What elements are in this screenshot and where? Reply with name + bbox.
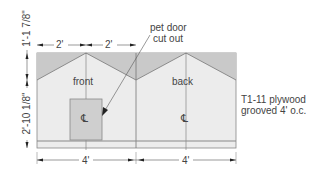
- dim-vertical-bottom: 2'-10 1/8": [21, 84, 32, 144]
- dim-top-left: 2': [56, 39, 63, 50]
- arrow-icon: [80, 44, 86, 47]
- arrow-icon: [130, 44, 136, 47]
- arrow-icon: [86, 44, 92, 47]
- arrow-icon: [37, 44, 43, 47]
- dim-bottom-right: 4': [182, 155, 189, 166]
- dim-bottom-left: 4': [82, 155, 89, 166]
- centerline-mark-back: ℄: [181, 113, 188, 124]
- note-line1: T1-11 plywood: [241, 94, 306, 105]
- note-line2: grooved 4' o.c.: [241, 105, 306, 116]
- panel-label-back: back: [172, 76, 193, 87]
- dim-top-right: 2': [105, 39, 112, 50]
- centerline-mark-front: ℄: [81, 113, 88, 124]
- panel-label-front: front: [73, 76, 93, 87]
- dim-vertical-top: 1'-1 7/8": [21, 1, 32, 57]
- callout-line2: cut out: [153, 33, 183, 44]
- callout-line1: pet door: [150, 22, 187, 33]
